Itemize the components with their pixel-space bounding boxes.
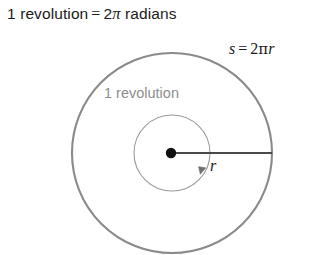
arc-length-label: s=2πr xyxy=(229,40,274,58)
revolution-label: 1 revolution xyxy=(104,85,179,101)
radius-label: r xyxy=(210,157,216,175)
rotation-direction-arrow-icon xyxy=(196,164,207,174)
arc-length-radius-symbol: r xyxy=(268,40,274,57)
arc-length-pi-symbol: π xyxy=(258,40,268,58)
center-point-dot xyxy=(166,148,176,158)
circle-diagram xyxy=(0,0,314,255)
arc-length-equals-sign: = xyxy=(235,40,250,57)
